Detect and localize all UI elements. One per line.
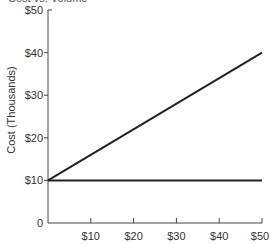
x-tick-label-50: $50 <box>251 230 269 242</box>
y-tick-label-0: 0 <box>37 217 43 229</box>
x-tick-label-40: $40 <box>210 230 228 242</box>
y-tick-label-20: $20 <box>25 132 43 144</box>
x-tick-label-10: $10 <box>82 230 100 242</box>
y-tick-label-50: $50 <box>25 4 43 16</box>
y-tick-label-40: $40 <box>25 47 43 59</box>
y-tick-label-10: $10 <box>25 174 43 186</box>
line-chart: $50 $40 $30 $20 $10 0 $10 $20 $30 $40 $5… <box>0 0 271 244</box>
rising-cost-line <box>48 53 262 181</box>
x-ticks <box>91 218 262 223</box>
y-axis-label: Cost (Thousands) <box>5 66 17 153</box>
x-tick-label-30: $30 <box>167 230 185 242</box>
y-ticks <box>44 53 48 181</box>
x-tick-label-20: $20 <box>124 230 142 242</box>
y-tick-label-30: $30 <box>25 89 43 101</box>
